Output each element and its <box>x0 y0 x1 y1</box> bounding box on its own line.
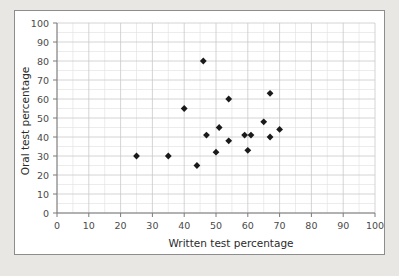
x-tick-label: 0 <box>54 220 60 231</box>
y-tick-label: 70 <box>37 75 49 86</box>
x-tick-label: 90 <box>337 220 349 231</box>
x-tick-label: 50 <box>210 220 222 231</box>
x-tick-label: 40 <box>178 220 190 231</box>
data-point <box>194 162 201 169</box>
x-axis-title: Written test percentage <box>168 237 293 249</box>
x-tick-label: 10 <box>83 220 95 231</box>
data-point <box>216 124 223 131</box>
y-tick-label: 0 <box>43 208 49 219</box>
x-tick-label: 70 <box>274 220 286 231</box>
y-axis-ticks: 0102030405060708090100 <box>31 18 57 219</box>
y-tick-label: 90 <box>37 37 49 48</box>
y-tick-label: 30 <box>37 151 49 162</box>
y-tick-label: 50 <box>37 113 49 124</box>
data-point <box>276 126 283 133</box>
y-tick-label: 20 <box>37 170 49 181</box>
data-point <box>213 149 220 156</box>
data-point <box>225 96 232 103</box>
y-tick-label: 100 <box>31 18 49 29</box>
y-tick-label: 40 <box>37 132 49 143</box>
chart-panel: 0102030405060708090100 01020304050607080… <box>14 10 385 255</box>
data-point <box>225 137 232 144</box>
y-tick-label: 60 <box>37 94 49 105</box>
data-point <box>133 153 140 160</box>
x-tick-label: 100 <box>366 220 384 231</box>
x-tick-label: 20 <box>115 220 127 231</box>
y-tick-label: 80 <box>37 56 49 67</box>
x-tick-label: 30 <box>146 220 158 231</box>
data-point <box>203 132 210 139</box>
data-point <box>181 105 188 112</box>
data-point <box>260 118 267 125</box>
data-point <box>267 90 274 97</box>
data-point <box>248 132 255 139</box>
data-point <box>244 147 251 154</box>
y-axis-title: Oral test percentage <box>19 67 31 176</box>
y-tick-label: 10 <box>37 189 49 200</box>
x-tick-label: 60 <box>242 220 254 231</box>
scatter-plot: 0102030405060708090100 01020304050607080… <box>15 11 384 254</box>
data-points <box>133 58 283 169</box>
x-axis-ticks: 0102030405060708090100 <box>54 213 384 231</box>
data-point <box>241 132 248 139</box>
data-point <box>267 134 274 141</box>
data-point <box>165 153 172 160</box>
x-tick-label: 80 <box>305 220 317 231</box>
data-point <box>200 58 207 65</box>
